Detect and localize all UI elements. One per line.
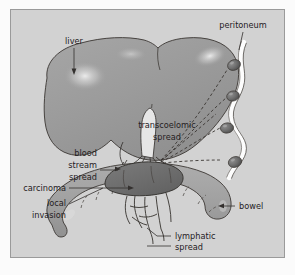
label-carcinoma: carcinoma xyxy=(23,183,66,193)
liver-highlight-mid xyxy=(115,47,147,61)
lymph-crossbranch xyxy=(139,214,157,217)
lymph-channel xyxy=(145,197,150,231)
label-local-line1: local xyxy=(47,198,66,208)
label-local-line2: invasion xyxy=(32,210,66,220)
lymph-channel xyxy=(125,196,130,224)
label-blood-line2: stream xyxy=(68,160,97,170)
label-peritoneum: peritoneum xyxy=(219,20,267,30)
label-transcoelomic-line2: spread xyxy=(153,132,181,142)
label-lymphatic-line1: lymphatic xyxy=(175,231,216,241)
label-lymphatic-line2: spread xyxy=(175,242,203,252)
label-transcoelomic-line1: transcoelomic xyxy=(138,120,196,130)
anatomy-diagram: liver peritoneum transcoelomic spread bl… xyxy=(11,10,284,257)
figure-panel: liver peritoneum transcoelomic spread bl… xyxy=(10,9,285,258)
label-bowel: bowel xyxy=(239,201,263,211)
transcoelomic-ray xyxy=(163,160,221,163)
lymph-channel xyxy=(156,196,161,229)
label-liver: liver xyxy=(65,36,83,46)
figure-root: liver peritoneum transcoelomic spread bl… xyxy=(0,0,295,275)
label-blood-line1: blood xyxy=(74,148,97,158)
lymph-terminal xyxy=(161,229,164,241)
label-blood-line3: spread xyxy=(69,172,97,182)
liver-highlight-left xyxy=(63,61,107,91)
lymph-channel xyxy=(166,193,171,222)
